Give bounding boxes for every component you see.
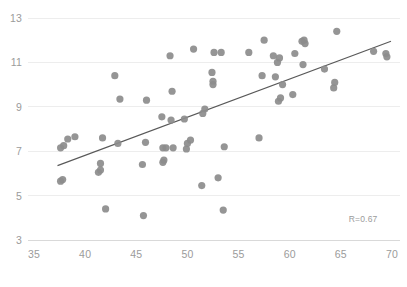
data-point xyxy=(333,28,340,35)
data-point xyxy=(97,166,104,173)
data-point xyxy=(198,182,205,189)
data-point xyxy=(258,72,265,79)
data-point xyxy=(289,91,296,98)
x-tick-label-60: 60 xyxy=(284,248,296,260)
correlation-annotation: R=0.67 xyxy=(349,214,378,224)
x-tick-label-40: 40 xyxy=(79,248,91,260)
data-point xyxy=(168,88,175,95)
x-tick-label-70: 70 xyxy=(386,248,398,260)
y-tick-label-11: 11 xyxy=(0,56,22,68)
data-point xyxy=(301,40,308,47)
data-point xyxy=(59,176,66,183)
data-point xyxy=(272,73,279,80)
data-point xyxy=(97,160,104,167)
data-point xyxy=(270,52,277,59)
data-point xyxy=(209,78,216,85)
data-point xyxy=(245,49,252,56)
data-point xyxy=(215,174,222,181)
data-point xyxy=(99,134,106,141)
data-point xyxy=(321,65,328,72)
data-point xyxy=(218,49,225,56)
data-point xyxy=(140,212,147,219)
data-point xyxy=(331,79,338,86)
data-point xyxy=(276,54,283,61)
data-point xyxy=(64,135,71,142)
data-point xyxy=(71,133,78,140)
data-point xyxy=(208,69,215,76)
data-point xyxy=(261,37,268,44)
data-point xyxy=(201,105,208,112)
y-tick-label-13: 13 xyxy=(0,12,22,24)
data-point xyxy=(111,72,118,79)
data-point xyxy=(167,117,174,124)
x-tick-label-65: 65 xyxy=(335,248,347,260)
data-point xyxy=(114,140,121,147)
x-tick-label-55: 55 xyxy=(233,248,245,260)
y-tick-label-7: 7 xyxy=(0,145,22,157)
data-point xyxy=(139,161,146,168)
data-point xyxy=(116,95,123,102)
y-tick-label-5: 5 xyxy=(0,190,22,202)
data-point xyxy=(187,137,194,144)
x-tick-label-50: 50 xyxy=(181,248,193,260)
data-point xyxy=(162,144,169,151)
data-point xyxy=(166,52,173,59)
data-point xyxy=(279,81,286,88)
data-point xyxy=(220,206,227,213)
data-point xyxy=(370,48,377,55)
y-tick-label-9: 9 xyxy=(0,101,22,113)
x-tick-label-45: 45 xyxy=(130,248,142,260)
plot-surface xyxy=(0,0,407,287)
data-point xyxy=(143,97,150,104)
y-tick-label-3: 3 xyxy=(0,234,22,246)
data-point xyxy=(190,45,197,52)
data-point xyxy=(291,50,298,57)
data-point xyxy=(160,156,167,163)
data-points xyxy=(57,28,390,219)
data-point xyxy=(102,205,109,212)
data-point xyxy=(210,49,217,56)
scatter-chart: 35791113 3540455055606570 R=0.67 xyxy=(0,0,407,287)
data-point xyxy=(158,113,165,120)
data-point xyxy=(181,115,188,122)
data-point xyxy=(221,143,228,150)
data-point xyxy=(255,134,262,141)
x-tick-label-35: 35 xyxy=(28,248,40,260)
data-point xyxy=(299,61,306,68)
data-point xyxy=(277,94,284,101)
data-point xyxy=(170,144,177,151)
data-point xyxy=(60,142,67,149)
data-point xyxy=(142,139,149,146)
data-point xyxy=(383,53,390,60)
